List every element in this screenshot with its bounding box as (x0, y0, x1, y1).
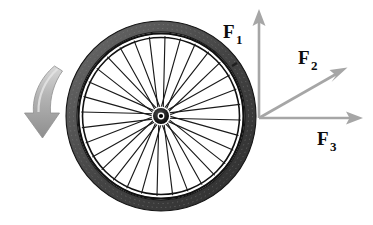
figure-root: F 1 F 2 F 3 (0, 0, 373, 225)
force-label-f2-letter: F (298, 47, 310, 68)
force-label-f3-subscript: 3 (330, 139, 337, 154)
force-label-f1-subscript: 1 (236, 32, 243, 47)
wheel-hub-core (159, 114, 163, 118)
force-diagram: F 1 F 2 F 3 (0, 0, 373, 225)
force-label-f3-letter: F (317, 128, 329, 149)
force-label-f1-letter: F (223, 21, 235, 42)
force-label-f2-subscript: 2 (311, 58, 318, 73)
